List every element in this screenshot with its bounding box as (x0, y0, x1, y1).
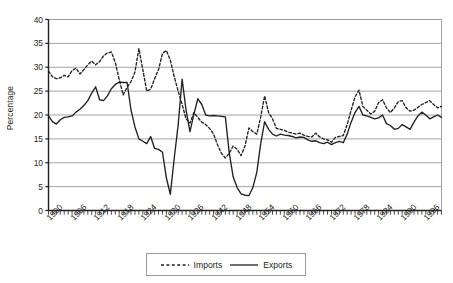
legend-label-imports: Imports (194, 260, 223, 270)
series-line-imports (49, 49, 442, 158)
chart-figure: Percentage 0510152025303540 190019061912… (0, 0, 453, 283)
series-line-exports (49, 79, 442, 196)
legend-item-exports: Exports (229, 260, 292, 270)
legend-swatch-solid-icon (229, 261, 259, 269)
plot-area (0, 0, 453, 283)
legend-item-imports: Imports (160, 260, 223, 270)
legend-label-exports: Exports (263, 260, 292, 270)
chart-legend: Imports Exports (146, 253, 306, 276)
legend-swatch-dashed-icon (160, 261, 190, 269)
